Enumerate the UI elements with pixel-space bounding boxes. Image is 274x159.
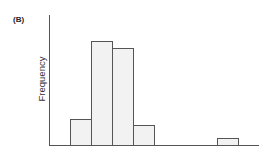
histogram <box>0 0 274 159</box>
histogram-bar <box>71 120 92 146</box>
bars <box>71 42 239 146</box>
histogram-bar <box>92 42 113 146</box>
histogram-bar <box>134 126 155 146</box>
histogram-bar <box>218 139 239 146</box>
histogram-bar <box>113 49 134 146</box>
